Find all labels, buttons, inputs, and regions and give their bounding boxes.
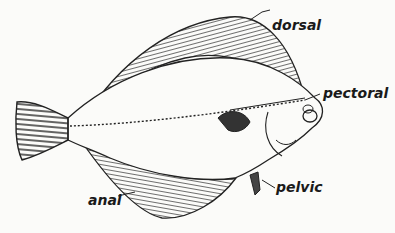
pelvic-fin [250,172,260,195]
label-anal: anal [88,193,122,207]
label-dorsal: dorsal [272,18,321,32]
fish-diagram: dorsal pectoral pelvic anal [0,0,395,233]
label-pelvic: pelvic [276,180,323,194]
fish-drawing [0,0,395,233]
caudal-fin [16,102,68,160]
label-pectoral: pectoral [323,86,388,100]
